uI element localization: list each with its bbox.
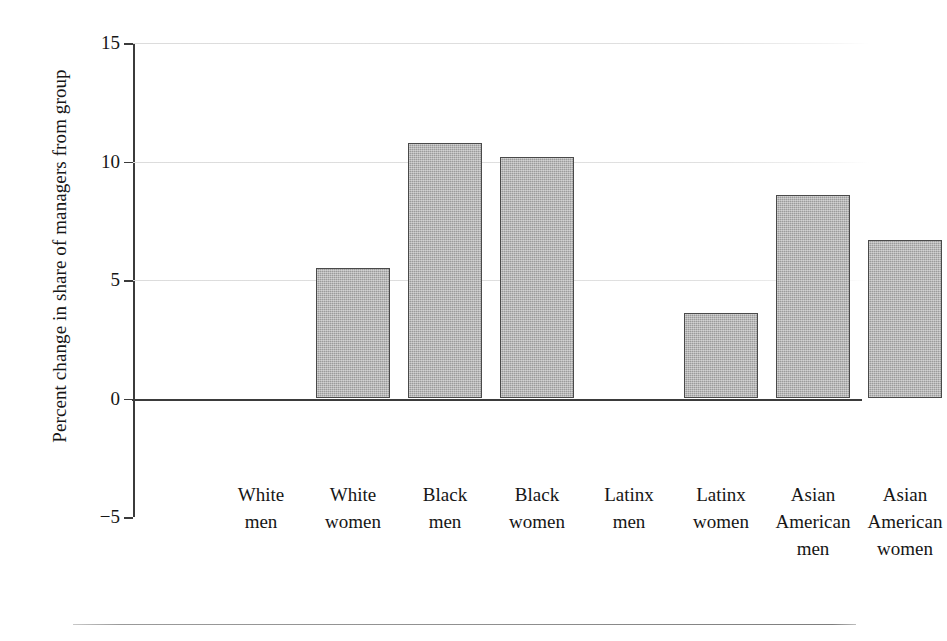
gridline-15 [133, 43, 870, 44]
x-axis-label-line: Asian [859, 482, 947, 509]
x-axis-label-line: men [767, 536, 859, 563]
x-axis-label-line: women [675, 509, 767, 536]
bar-black-men [408, 143, 482, 399]
x-axis-label-black-women: Blackwomen [491, 482, 583, 536]
x-axis-label-line: women [859, 536, 947, 563]
x-axis-label-line: American [859, 509, 947, 536]
y-tick-mark-10 [124, 162, 133, 164]
x-axis-label-line: women [491, 509, 583, 536]
x-axis-label-line: Asian [767, 482, 859, 509]
y-tick-mark--5 [124, 517, 133, 519]
x-axis-label-line: men [583, 509, 675, 536]
plot-area: 151050−5 [133, 43, 870, 517]
y-tick-label-5: 5 [111, 269, 121, 291]
zero-baseline [132, 399, 862, 401]
x-axis-label-black-men: Blackmen [399, 482, 491, 536]
y-tick-mark-15 [124, 43, 133, 45]
x-axis-label-asian-american-men: AsianAmericanmen [767, 482, 859, 563]
x-axis-label-line: men [399, 509, 491, 536]
bar-asian-american-women [868, 240, 942, 399]
y-tick-label-15: 15 [101, 32, 120, 54]
y-tick-label-10: 10 [101, 151, 120, 173]
y-axis-title: Percent change in share of managers from… [49, 36, 71, 476]
x-axis-label-line: Black [399, 482, 491, 509]
x-axis-label-line: women [307, 509, 399, 536]
bar-black-women [500, 157, 574, 399]
y-tick-mark-0 [124, 399, 133, 401]
x-axis-label-line: Latinx [675, 482, 767, 509]
y-tick-label-0: 0 [111, 388, 121, 410]
x-axis-label-line: Latinx [583, 482, 675, 509]
y-tick-label--5: −5 [100, 506, 120, 528]
y-tick-mark-5 [124, 280, 133, 282]
x-axis-label-latinx-women: Latinxwomen [675, 482, 767, 536]
x-axis-label-white-men: Whitemen [215, 482, 307, 536]
bar-asian-american-men [776, 195, 850, 399]
x-axis-label-asian-american-women: AsianAmericanwomen [859, 482, 947, 563]
x-axis-label-line: White [307, 482, 399, 509]
bar-latinx-women [684, 313, 758, 398]
x-axis-label-line: men [215, 509, 307, 536]
x-axis-label-line: Black [491, 482, 583, 509]
bar-white-women [316, 268, 390, 398]
x-axis-label-latinx-men: Latinxmen [583, 482, 675, 536]
x-axis-label-line: American [767, 509, 859, 536]
x-axis-label-line: White [215, 482, 307, 509]
bottom-rule [73, 624, 856, 625]
x-axis-label-white-women: Whitewomen [307, 482, 399, 536]
